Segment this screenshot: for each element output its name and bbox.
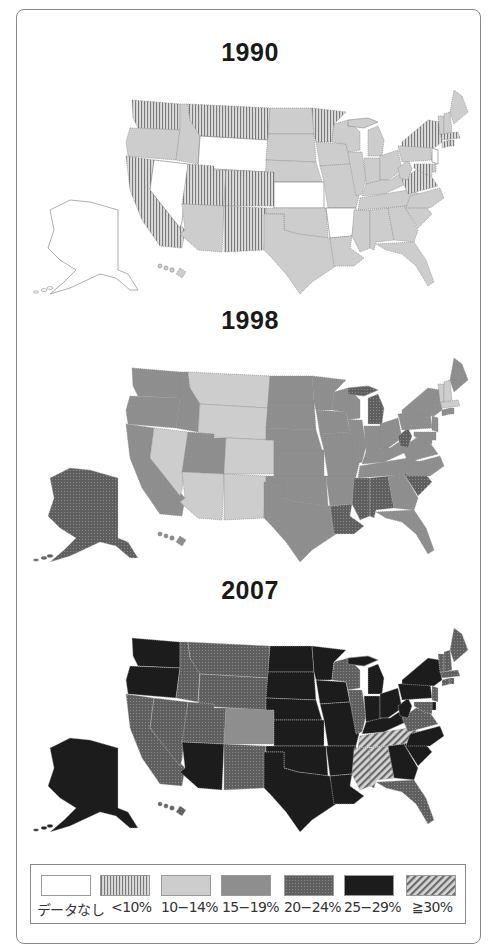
state-co: [224, 170, 274, 206]
state-ut: [182, 164, 226, 206]
state-az: [180, 204, 224, 252]
state-mt: [188, 372, 270, 408]
legend-swatch-nodata: [41, 875, 91, 896]
state-co: [224, 438, 274, 474]
state-ny: [402, 388, 442, 416]
legend-swatch-15-19: [221, 875, 271, 896]
hawaii-island: [158, 532, 162, 536]
state-hi: [176, 536, 186, 546]
state-de: [432, 432, 436, 440]
state-ak: [48, 468, 138, 562]
state-ms: [352, 478, 370, 520]
state-nm: [224, 474, 266, 520]
map-1990: [30, 60, 480, 295]
state-nj: [432, 416, 438, 432]
hawaii-island: [164, 266, 168, 270]
aleutian-island: [47, 555, 53, 558]
aleutian-island: [47, 825, 53, 828]
state-or: [126, 666, 180, 698]
state-mi: [368, 664, 384, 694]
legend-label-20-24: 20−24%: [284, 899, 341, 915]
state-az: [180, 472, 224, 520]
state-mi-upper: [348, 386, 378, 396]
state-ia: [316, 680, 350, 704]
state-ia: [316, 410, 350, 434]
state-ar: [326, 746, 356, 776]
state-ms: [352, 210, 370, 252]
state-fl: [376, 510, 434, 554]
state-ri: [450, 678, 454, 684]
state-sd: [266, 402, 316, 430]
legend-label-lt10: <10%: [111, 899, 151, 915]
state-ne: [266, 428, 322, 450]
state-ne: [266, 698, 322, 720]
state-mi-upper: [348, 656, 378, 666]
state-ne: [266, 160, 322, 182]
map-1998: [30, 328, 480, 563]
legend-swatch-lt10: [100, 875, 150, 896]
legend-label-15-19: 15−19%: [222, 899, 279, 915]
state-mt: [188, 642, 270, 678]
state-ia: [316, 142, 350, 166]
state-wa: [132, 368, 180, 398]
hawaii-island: [170, 806, 174, 810]
state-ct: [442, 140, 450, 148]
state-mi-upper: [348, 118, 378, 128]
state-ny: [402, 120, 442, 148]
state-ak: [48, 738, 138, 832]
state-ct: [442, 678, 450, 686]
legend: データなし <10% 10−14% 15−19% 20−24% 25−29% ≧…: [30, 864, 466, 924]
legend-swatch-20-24: [284, 875, 334, 896]
legend-swatch-ge30: [406, 875, 456, 896]
hawaii-island: [164, 804, 168, 808]
legend-label-ge30: ≧30%: [412, 899, 452, 915]
aleutian-island: [47, 287, 53, 290]
aleutian-island: [33, 829, 38, 831]
state-hi: [176, 806, 186, 816]
state-fl: [376, 242, 434, 286]
legend-swatch-10-14: [161, 875, 211, 896]
state-de: [432, 164, 436, 172]
state-mi: [368, 126, 384, 156]
state-in: [364, 426, 380, 452]
state-me: [450, 358, 468, 392]
aleutian-island: [33, 559, 38, 561]
state-me: [450, 628, 468, 662]
state-ct: [442, 408, 450, 416]
state-or: [126, 396, 180, 428]
state-mi: [368, 394, 384, 424]
state-ri: [450, 140, 454, 146]
state-nd: [268, 376, 314, 402]
state-ut: [182, 702, 226, 744]
aleutian-island: [41, 289, 47, 292]
hawaii-island: [158, 802, 162, 806]
state-ut: [182, 432, 226, 474]
state-wa: [132, 638, 180, 668]
map-2007: [30, 598, 480, 833]
state-az: [180, 742, 224, 790]
state-in: [364, 696, 380, 722]
state-de: [432, 702, 436, 710]
state-ks: [274, 450, 324, 476]
state-hi: [176, 268, 186, 278]
state-ar: [326, 208, 356, 238]
state-nj: [432, 148, 438, 164]
state-nd: [268, 646, 314, 672]
state-co: [224, 708, 274, 744]
state-ks: [274, 182, 324, 208]
state-ar: [326, 476, 356, 506]
state-ny: [402, 658, 442, 686]
state-nd: [268, 108, 314, 134]
aleutian-island: [41, 827, 47, 830]
hawaii-island: [158, 264, 162, 268]
legend-label-nodata: データなし: [37, 899, 104, 919]
hawaii-island: [164, 534, 168, 538]
legend-label-10-14: 10−14%: [161, 899, 218, 915]
legend-swatch-25-29: [344, 875, 394, 896]
state-nm: [224, 206, 266, 252]
aleutian-island: [41, 557, 47, 560]
hawaii-island: [170, 536, 174, 540]
state-nm: [224, 744, 266, 790]
state-sd: [266, 672, 316, 700]
state-ak: [48, 200, 138, 294]
